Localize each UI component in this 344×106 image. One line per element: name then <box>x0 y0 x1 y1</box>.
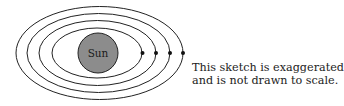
planet-3 <box>168 51 172 55</box>
sun-label: Sun <box>88 47 109 59</box>
caption: This sketch is exaggerated and is not dr… <box>192 61 344 87</box>
caption-line-2: and is not drawn to scale. <box>192 74 344 87</box>
planet-4 <box>181 51 185 55</box>
planet-2 <box>154 51 158 55</box>
planet-1 <box>141 51 145 55</box>
caption-line-1: This sketch is exaggerated <box>192 61 344 74</box>
